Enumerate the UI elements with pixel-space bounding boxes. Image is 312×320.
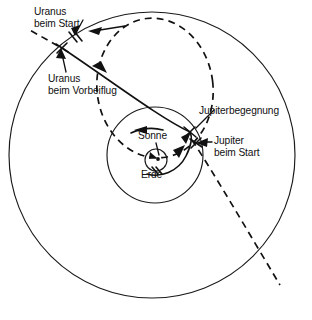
leader-uranus-start (100, 26, 125, 30)
arrowhead-uranus-orbit (88, 27, 102, 35)
label-jupiter-encounter: Jupiterbegegnung (199, 105, 279, 117)
earth-orbit-path (107, 107, 203, 203)
arrowhead-earth-loop (149, 152, 157, 159)
label-uranus-flyby-line1: Uranus (48, 73, 117, 85)
marker-sonne (156, 157, 160, 161)
arrowhead-trajectory-inbound (173, 145, 185, 158)
label-jupiter-start: Jupiter beim Start (214, 135, 259, 158)
label-jupiter-start-line2: beim Start (214, 147, 259, 159)
label-jupiter-start-line1: Jupiter (214, 135, 259, 147)
label-uranus-flyby-line2: beim Vorbeiflug (48, 85, 117, 97)
orbit-diagram-canvas (0, 0, 312, 320)
arrowhead-trajectory-jupiter (181, 132, 191, 144)
uranus-orbit-dashed-tail (28, 29, 58, 46)
label-uranus-flyby: Uranus beim Vorbeiflug (48, 73, 117, 96)
trajectory-escape-dashed (192, 140, 280, 285)
label-uranus-start-line2: beim Start (34, 18, 79, 30)
label-erde: Erde (141, 169, 162, 181)
marker-jupiter-encounter (184, 127, 196, 137)
label-sonne: Sonne (138, 130, 167, 142)
label-uranus-start: Uranus beim Start (34, 6, 79, 29)
swingby-diagram: Uranus beim Start Uranus beim Vorbeiflug… (0, 0, 312, 320)
label-uranus-start-line1: Uranus (34, 6, 79, 18)
arrowhead-trajectory-outbound (92, 61, 107, 73)
